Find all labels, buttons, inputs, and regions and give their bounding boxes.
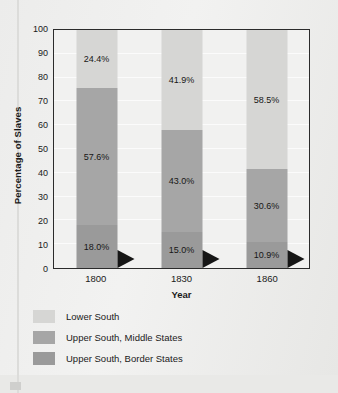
bar-segment-value-label: 58.5% — [254, 95, 280, 105]
bar-panels: 18.0%57.6%24.4%15.0%43.0%41.9%10.9%30.6%… — [54, 30, 309, 268]
legend-item-label: Lower South — [66, 311, 119, 322]
legend-item-label: Upper South, Border States — [66, 353, 183, 364]
y-axis-tick-70: 70 — [20, 97, 48, 106]
x-axis-tick-1800: 1800 — [53, 273, 139, 284]
y-axis-tick-100: 100 — [20, 25, 48, 34]
y-axis-tick-60: 60 — [20, 121, 48, 130]
plot-area: 18.0%57.6%24.4%15.0%43.0%41.9%10.9%30.6%… — [53, 29, 310, 269]
legend-color-swatch — [33, 352, 55, 365]
bar-segment[interactable]: 10.9% — [246, 242, 287, 268]
y-axis-tick-40: 40 — [20, 169, 48, 178]
bar-segment-value-label: 41.9% — [169, 75, 195, 85]
x-axis-title: Year — [53, 289, 310, 300]
bar-depth-arrow-icon — [117, 250, 134, 268]
y-axis-tick-90: 90 — [20, 49, 48, 58]
bar-1860[interactable]: 10.9%30.6%58.5% — [246, 30, 287, 268]
bar-1800[interactable]: 18.0%57.6%24.4% — [76, 30, 117, 268]
x-axis-tick-1830: 1830 — [139, 273, 225, 284]
bar-1830[interactable]: 15.0%43.0%41.9% — [161, 30, 202, 268]
y-axis-tick-80: 80 — [20, 73, 48, 82]
y-axis-tick-labels: 1009080706050403020100 — [20, 27, 48, 269]
bar-segment-value-label: 18.0% — [84, 242, 110, 252]
bar-segment-value-label: 15.0% — [169, 245, 195, 255]
legend-color-swatch — [33, 331, 55, 344]
bar-depth-arrow-icon — [202, 250, 219, 268]
legend-color-swatch — [33, 310, 55, 323]
bar-segment[interactable]: 18.0% — [76, 225, 117, 268]
bar-segment[interactable]: 58.5% — [246, 30, 287, 169]
y-axis-tick-10: 10 — [20, 241, 48, 250]
bar-segment-value-label: 43.0% — [169, 176, 195, 186]
bar-segment-value-label: 30.6% — [254, 201, 280, 211]
legend-item-label: Upper South, Middle States — [66, 332, 182, 343]
x-axis-tick-labels: 180018301860 — [53, 273, 310, 284]
bar-segment-value-label: 24.4% — [84, 54, 110, 64]
legend-item[interactable]: Upper South, Middle States — [33, 327, 313, 347]
bar-segment[interactable]: 57.6% — [76, 88, 117, 225]
y-axis-tick-50: 50 — [20, 145, 48, 154]
bar-panel-1800: 18.0%57.6%24.4% — [54, 30, 139, 268]
legend-item[interactable]: Upper South, Border States — [33, 348, 313, 368]
bar-segment[interactable]: 41.9% — [161, 30, 202, 130]
bar-depth-arrow-icon — [287, 250, 304, 268]
chart-legend: Lower SouthUpper South, Middle StatesUpp… — [33, 306, 313, 369]
bar-panel-1860: 10.9%30.6%58.5% — [224, 30, 309, 268]
bar-panel-1830: 15.0%43.0%41.9% — [139, 30, 224, 268]
x-axis-tick-1860: 1860 — [224, 273, 310, 284]
legend-item[interactable]: Lower South — [33, 306, 313, 326]
y-axis-tick-20: 20 — [20, 217, 48, 226]
bar-segment-value-label: 10.9% — [254, 250, 280, 260]
bar-segment[interactable]: 24.4% — [76, 30, 117, 88]
stacked-bar-chart: Percentage of Slaves 1009080706050403020… — [0, 0, 338, 393]
bar-segment[interactable]: 43.0% — [161, 130, 202, 232]
bar-segment-value-label: 57.6% — [84, 152, 110, 162]
bar-segment[interactable]: 30.6% — [246, 169, 287, 242]
y-axis-tick-30: 30 — [20, 193, 48, 202]
y-axis-tick-0: 0 — [20, 265, 48, 274]
bar-segment[interactable]: 15.0% — [161, 232, 202, 268]
